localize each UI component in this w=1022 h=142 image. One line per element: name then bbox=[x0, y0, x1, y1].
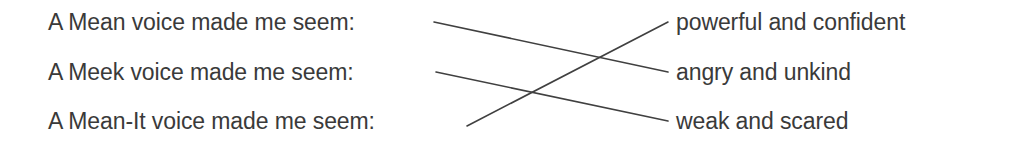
connector-line-mean-to-angry[interactable] bbox=[434, 22, 668, 72]
connector-line-mean-it-to-powerful[interactable] bbox=[467, 22, 668, 126]
connector-line-meek-to-weak[interactable] bbox=[436, 72, 668, 121]
answer-item-powerful[interactable]: powerful and confident bbox=[676, 11, 905, 34]
answer-item-weak[interactable]: weak and scared bbox=[676, 110, 848, 133]
matching-worksheet: A Mean voice made me seem: A Meek voice … bbox=[0, 0, 1022, 142]
prompt-item-mean-it[interactable]: A Mean-It voice made me seem: bbox=[48, 110, 375, 133]
prompt-item-mean[interactable]: A Mean voice made me seem: bbox=[48, 11, 355, 34]
answer-item-angry[interactable]: angry and unkind bbox=[676, 61, 851, 84]
prompt-item-meek[interactable]: A Meek voice made me seem: bbox=[48, 61, 353, 84]
